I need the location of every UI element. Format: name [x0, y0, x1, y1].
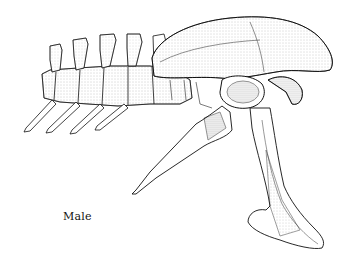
figure-caption: Male — [63, 210, 92, 223]
ischium — [248, 108, 324, 249]
pubis — [132, 106, 232, 194]
figure: Male — [0, 0, 360, 257]
ilium — [152, 17, 332, 79]
skeleton-illustration — [0, 0, 360, 257]
acetabulum — [220, 76, 302, 108]
